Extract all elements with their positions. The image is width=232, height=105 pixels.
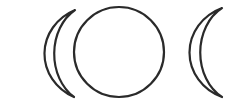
full-moon-icon bbox=[74, 7, 164, 97]
waning-crescent-icon bbox=[189, 8, 222, 97]
waxing-crescent-icon bbox=[44, 10, 75, 97]
triple-moon-icon bbox=[0, 0, 232, 105]
